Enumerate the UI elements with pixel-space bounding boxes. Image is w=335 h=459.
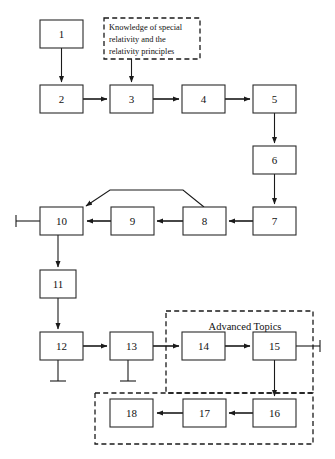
node-18-label: 18 xyxy=(126,407,138,419)
node-4-label: 4 xyxy=(201,93,207,105)
terminator-13-down xyxy=(120,360,136,381)
node-18[interactable]: 18 xyxy=(110,399,153,427)
node-14-label: 14 xyxy=(198,340,210,352)
node-16[interactable]: 16 xyxy=(253,399,296,427)
note-knowledge: Knowledge of special relativity and the … xyxy=(104,18,200,59)
diagram-canvas: Advanced Topics xyxy=(0,0,335,459)
node-9[interactable]: 9 xyxy=(111,207,154,235)
node-3[interactable]: 3 xyxy=(110,85,153,113)
node-15[interactable]: 15 xyxy=(253,332,296,360)
node-5[interactable]: 5 xyxy=(253,85,296,113)
node-8-label: 8 xyxy=(202,215,208,227)
node-15-label: 15 xyxy=(269,340,281,352)
node-10-label: 10 xyxy=(56,215,68,227)
node-12[interactable]: 12 xyxy=(40,332,83,360)
node-17-label: 17 xyxy=(199,407,211,419)
node-2[interactable]: 2 xyxy=(40,85,83,113)
node-3-label: 3 xyxy=(129,93,135,105)
node-7[interactable]: 7 xyxy=(253,207,296,235)
node-14[interactable]: 14 xyxy=(182,332,225,360)
note-knowledge-line-2: relativity and the xyxy=(109,35,166,44)
node-12-label: 12 xyxy=(56,340,67,352)
terminator-12-down xyxy=(50,360,66,381)
node-6[interactable]: 6 xyxy=(253,146,296,174)
node-10[interactable]: 10 xyxy=(40,207,83,235)
node-2-label: 2 xyxy=(59,93,65,105)
node-layer: 1 2 3 4 5 6 xyxy=(40,20,296,427)
node-1-label: 1 xyxy=(59,28,65,40)
node-1[interactable]: 1 xyxy=(40,20,83,48)
node-9-label: 9 xyxy=(130,215,136,227)
group-advanced-topics-label: Advanced Topics xyxy=(209,321,282,332)
node-17[interactable]: 17 xyxy=(183,399,226,427)
node-11[interactable]: 11 xyxy=(40,270,76,298)
flowchart-svg: Advanced Topics xyxy=(0,0,335,459)
terminator-15-right xyxy=(296,340,320,352)
node-7-label: 7 xyxy=(272,215,278,227)
node-16-label: 16 xyxy=(269,407,281,419)
node-8[interactable]: 8 xyxy=(183,207,226,235)
node-11-label: 11 xyxy=(53,278,64,290)
node-5-label: 5 xyxy=(272,93,278,105)
node-13[interactable]: 13 xyxy=(110,332,153,360)
note-knowledge-line-1: Knowledge of special xyxy=(109,23,183,32)
edge-8-to-10-bypass xyxy=(86,190,204,207)
note-knowledge-line-3: relativity principles xyxy=(109,47,174,56)
node-4[interactable]: 4 xyxy=(182,85,225,113)
node-6-label: 6 xyxy=(272,154,278,166)
node-13-label: 13 xyxy=(126,340,138,352)
terminator-10-left xyxy=(16,215,40,227)
